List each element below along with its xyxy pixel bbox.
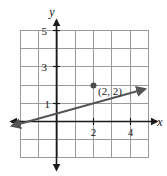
y-axis-label: y — [48, 5, 55, 19]
data-point-marker — [91, 83, 97, 89]
data-point-label: (2, 2) — [98, 85, 122, 98]
graph-canvas: y x 5 3 1 2 4 (2, 2) — [0, 0, 167, 176]
y-tick-label-1: 1 — [45, 98, 51, 110]
plotted-line — [12, 89, 145, 126]
x-axis-label: x — [156, 115, 163, 129]
coordinate-plane-graph: y x 5 3 1 2 4 (2, 2) — [0, 0, 167, 176]
x-tick-label-4: 4 — [128, 126, 134, 138]
y-tick-label-3: 3 — [42, 61, 48, 73]
x-tick-label-2: 2 — [91, 126, 97, 138]
y-tick-label-5: 5 — [42, 25, 48, 37]
